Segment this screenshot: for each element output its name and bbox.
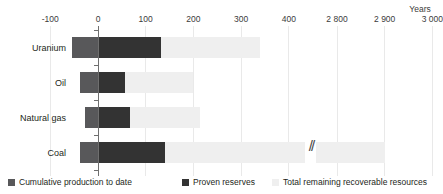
legend-item[interactable]: Proven reserves bbox=[182, 177, 255, 187]
x-tick-label: -100 bbox=[42, 14, 59, 24]
bar-cumulative-production-to-date bbox=[85, 107, 98, 128]
x-tick-label: 300 bbox=[234, 14, 248, 24]
gridline bbox=[432, 26, 433, 176]
axis-tick bbox=[94, 65, 98, 66]
bar-cumulative-production-to-date bbox=[80, 142, 98, 163]
x-tick-label: 2 800 bbox=[326, 14, 347, 24]
chart-legend: Cumulative production to dateProven rese… bbox=[0, 175, 441, 189]
x-axis-unit-label: Years bbox=[409, 4, 430, 14]
legend-swatch-icon bbox=[272, 179, 279, 186]
zero-line bbox=[98, 26, 99, 176]
x-tick-label: 400 bbox=[282, 14, 296, 24]
axis-tick bbox=[94, 135, 98, 136]
bar-proven-reserves bbox=[98, 107, 130, 128]
legend-swatch-icon bbox=[182, 179, 189, 186]
x-tick-label: 3 000 bbox=[422, 14, 443, 24]
x-tick-label: 2 900 bbox=[374, 14, 395, 24]
legend-label: Cumulative production to date bbox=[19, 177, 132, 187]
legend-label: Total remaining recoverable resources bbox=[283, 177, 427, 187]
axis-tick bbox=[94, 30, 98, 31]
legend-item[interactable]: Cumulative production to date bbox=[8, 177, 132, 187]
legend-item[interactable]: Total remaining recoverable resources bbox=[272, 177, 427, 187]
x-tick-label: 0 bbox=[96, 14, 101, 24]
bar-proven-reserves bbox=[98, 37, 161, 58]
axis-break-icon: // bbox=[309, 138, 313, 153]
category-label: Uranium bbox=[32, 43, 66, 53]
legend-swatch-icon bbox=[8, 179, 15, 186]
bar-proven-reserves bbox=[98, 142, 165, 163]
bar-cumulative-production-to-date bbox=[80, 72, 98, 93]
x-tick-label: 100 bbox=[139, 14, 153, 24]
bar-cumulative-production-to-date bbox=[72, 37, 98, 58]
category-label: Coal bbox=[47, 148, 66, 158]
legend-label: Proven reserves bbox=[193, 177, 255, 187]
bar-proven-reserves bbox=[98, 72, 125, 93]
axis-tick bbox=[94, 100, 98, 101]
x-tick-label: 200 bbox=[186, 14, 200, 24]
category-label: Oil bbox=[55, 78, 66, 88]
category-label: Natural gas bbox=[20, 113, 66, 123]
axis-tick bbox=[94, 170, 98, 171]
